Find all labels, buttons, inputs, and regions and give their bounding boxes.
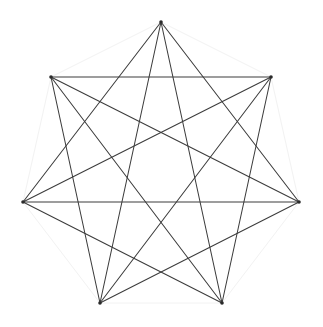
diagonal-edge: [100, 202, 299, 303]
graph-vertex: [49, 75, 53, 79]
graph-vertex: [220, 301, 224, 305]
diagonal-edge: [100, 22, 161, 303]
complete-graph-k7-diagram: [0, 0, 323, 327]
diagonal-edge: [23, 202, 222, 303]
graph-vertex: [297, 200, 301, 204]
perimeter-edge: [222, 202, 299, 303]
graph-vertex: [159, 20, 163, 24]
graph-vertex: [269, 75, 273, 79]
diagonal-edge: [161, 22, 222, 303]
perimeter-edge-group: [23, 22, 299, 303]
perimeter-edge: [23, 202, 100, 303]
diagonal-edge: [100, 77, 271, 303]
graph-vertex: [98, 301, 102, 305]
perimeter-edge: [161, 22, 271, 77]
vertex-group: [21, 20, 301, 305]
perimeter-edge: [51, 22, 161, 77]
diagonal-edge: [51, 77, 222, 303]
diagonal-edge: [161, 22, 299, 202]
diagonal-edge: [23, 77, 271, 202]
figure-canvas: [0, 0, 323, 327]
graph-vertex: [21, 200, 25, 204]
diagonal-edge-group: [23, 22, 299, 303]
diagonal-edge: [23, 22, 161, 202]
diagonal-edge: [51, 77, 299, 202]
